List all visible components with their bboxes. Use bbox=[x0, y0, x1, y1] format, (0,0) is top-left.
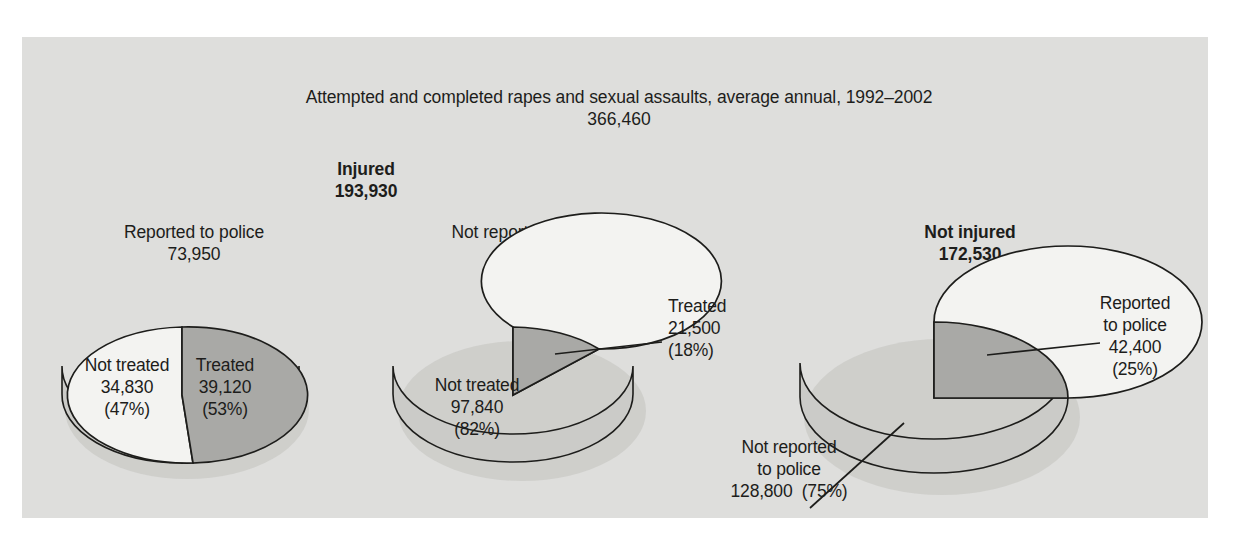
pie2-label-not-treated-percent: (82%) bbox=[454, 419, 500, 440]
figure-canvas: Attempted and completed rapes and sexual… bbox=[0, 0, 1239, 546]
chart-panel: Attempted and completed rapes and sexual… bbox=[22, 37, 1208, 518]
pie-chart-injured-not-reported[interactable] bbox=[377, 299, 667, 509]
pie2-label-treated-percent: (18%) bbox=[668, 340, 714, 361]
group-heading-not-injured: Not injured bbox=[924, 222, 1015, 243]
group-heading-injured: Injured bbox=[337, 159, 395, 180]
pie1-label-treated-name: Treated bbox=[196, 355, 254, 376]
pie1-label-treated-percent: (53%) bbox=[202, 399, 248, 420]
pie2-label-not-treated-name: Not treated bbox=[435, 375, 519, 396]
pie1-heading-reported-to-police: Reported to police bbox=[124, 222, 264, 243]
pie1-label-not-treated-value: 34,830 bbox=[101, 377, 153, 398]
chart-total-value: 366,460 bbox=[587, 109, 650, 130]
pie-chart-injured-reported[interactable] bbox=[47, 299, 317, 509]
pie1-heading-value: 73,950 bbox=[168, 244, 221, 265]
pie2-label-not-treated-value: 97,840 bbox=[451, 397, 503, 418]
pie3-label-not-reported-l1: Not reported bbox=[742, 437, 837, 458]
pie3-label-not-reported-value-percent: 128,800 (75%) bbox=[731, 481, 848, 502]
pie1-label-treated-value: 39,120 bbox=[199, 377, 251, 398]
pie3-label-reported-l1: Reported bbox=[1100, 293, 1170, 314]
pie2-label-treated-name: Treated bbox=[668, 296, 726, 317]
pie3-label-reported-l2: to police bbox=[1103, 315, 1166, 336]
pie2-label-treated-value: 21,500 bbox=[668, 318, 720, 339]
pie3-label-reported-percent: (25%) bbox=[1112, 359, 1158, 380]
pie3-label-reported-value: 42,400 bbox=[1109, 337, 1161, 358]
chart-title: Attempted and completed rapes and sexual… bbox=[306, 87, 933, 108]
pie1-label-not-treated-name: Not treated bbox=[85, 355, 169, 376]
pie1-label-not-treated-percent: (47%) bbox=[104, 399, 150, 420]
pie3-label-not-reported-l2: to police bbox=[757, 459, 820, 480]
group-value-injured: 193,930 bbox=[335, 181, 398, 202]
